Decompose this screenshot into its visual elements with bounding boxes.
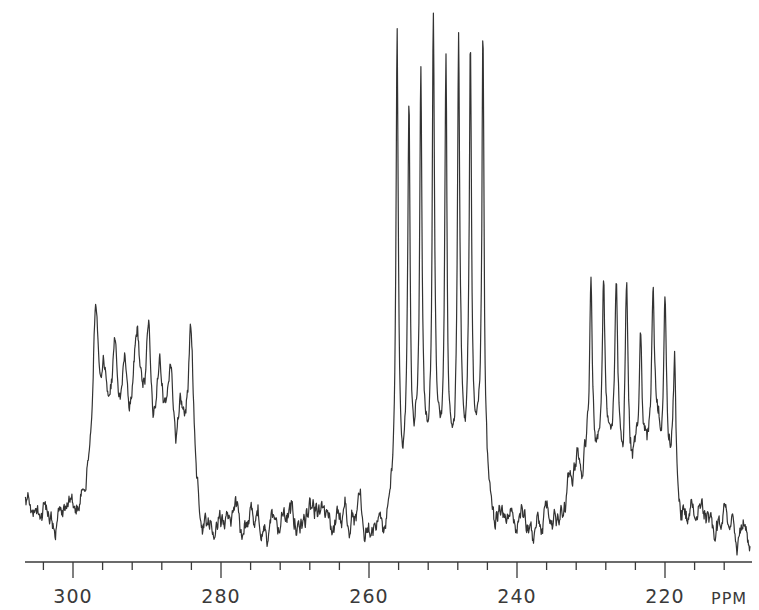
x-axis-ticks xyxy=(43,562,724,578)
tick-label-220: 220 xyxy=(645,585,684,607)
tick-label-260: 260 xyxy=(349,585,388,607)
tick-label-280: 280 xyxy=(201,585,240,607)
tick-label-240: 240 xyxy=(497,585,536,607)
x-axis-tick-labels: 300280260240220 xyxy=(53,585,684,607)
tick-label-300: 300 xyxy=(53,585,92,607)
nmr-spectrum-chart: 300280260240220 PPM xyxy=(0,0,759,610)
plot-area xyxy=(25,13,750,555)
spectrum-trace xyxy=(25,13,750,555)
x-axis: 300280260240220 PPM xyxy=(25,562,752,608)
x-axis-unit-label: PPM xyxy=(711,589,747,608)
